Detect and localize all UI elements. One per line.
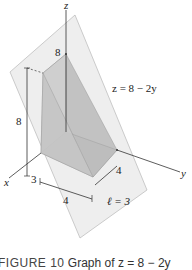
z-axis-label: z — [64, 0, 68, 11]
height-label: 8 — [16, 116, 22, 127]
caption-text: Graph of z = 8 − 2y — [68, 256, 171, 270]
slice-length-label: ℓ = 3 — [107, 196, 130, 207]
plane-equation-label: z = 8 − 2y — [112, 83, 157, 94]
z-intercept-label: 8 — [55, 47, 61, 58]
point-z8 — [65, 53, 67, 55]
x-axis-label: x — [4, 177, 9, 188]
y-axis-label: y — [181, 168, 186, 179]
figure-caption: FIGURE 10 Graph of z = 8 − 2y — [0, 256, 171, 270]
y-mark-label: 4 — [116, 165, 122, 176]
point-y4 — [116, 149, 118, 151]
base-width-label: 4 — [63, 195, 69, 206]
x-mark-label: 3 — [31, 174, 37, 185]
caption-prefix: FIGURE 10 — [0, 256, 65, 270]
